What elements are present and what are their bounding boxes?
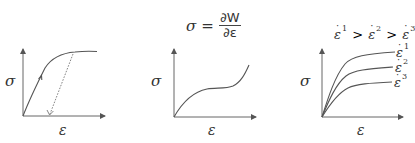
x-axis-label: ε xyxy=(208,123,216,137)
formula-fraction: ∂W ∂ε xyxy=(219,11,241,40)
unloading-line xyxy=(50,54,73,114)
panel-elastoplastic xyxy=(23,49,105,116)
formula-denominator: ∂ε xyxy=(219,26,241,40)
greater-than: > xyxy=(386,27,397,42)
stress-strain-curve xyxy=(174,65,249,117)
loading-curve xyxy=(23,51,97,116)
curve-rate-2 xyxy=(322,67,393,117)
strain-rate-1: ·ε1 xyxy=(334,27,351,42)
formula-equals: = xyxy=(201,17,214,35)
y-axis-label: σ xyxy=(5,74,15,89)
formula-lhs: σ xyxy=(186,17,196,35)
unloading-arrow-icon xyxy=(47,110,53,115)
panel-hyperelastic xyxy=(174,49,256,117)
x-axis-label: ε xyxy=(357,123,365,137)
x-axis-label: ε xyxy=(59,123,67,137)
y-axis-label: σ xyxy=(300,74,310,89)
y-axis-label: σ xyxy=(151,74,161,89)
strain-rate-relation: ·ε1 > ·ε2 > ·ε3 xyxy=(334,25,415,43)
formula-numerator: ∂W xyxy=(219,11,241,26)
panel-viscoelastic xyxy=(322,49,403,117)
greater-than: > xyxy=(352,27,363,42)
strain-rate-3: ·ε3 xyxy=(402,27,415,42)
formula-stress-derivative: σ = ∂W ∂ε xyxy=(186,11,241,40)
strain-rate-2: ·ε2 xyxy=(368,27,385,42)
curve-label-rate-3: ·ε3 xyxy=(394,76,407,89)
